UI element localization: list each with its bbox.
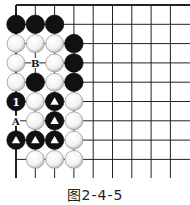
go-board: 1 BA <box>0 0 190 180</box>
black-stone <box>65 34 84 53</box>
black-stone <box>45 131 64 150</box>
white-stone <box>26 93 44 111</box>
black-stone <box>7 15 26 34</box>
stones-layer: 1 <box>7 15 83 168</box>
white-stone <box>26 150 44 168</box>
white-stone <box>7 54 25 72</box>
white-stone <box>65 150 83 168</box>
white-stone <box>26 35 44 53</box>
black-stone <box>45 92 64 111</box>
black-stone <box>7 131 26 150</box>
white-stone <box>65 131 83 149</box>
white-stone <box>46 73 64 91</box>
white-stone <box>46 150 64 168</box>
black-stone: 1 <box>7 92 26 111</box>
black-stone <box>26 73 45 92</box>
white-stone <box>65 112 83 130</box>
black-stone <box>45 15 64 34</box>
point-label-a: A <box>11 116 20 127</box>
white-stone <box>26 112 44 130</box>
white-stone <box>46 54 64 72</box>
white-stone <box>46 35 64 53</box>
move-number: 1 <box>12 96 20 109</box>
black-stone <box>26 131 45 150</box>
black-stone <box>65 73 84 92</box>
figure-caption: 图2-4-5 <box>0 184 190 204</box>
black-stone <box>26 15 45 34</box>
white-stone <box>65 93 83 111</box>
point-label-b: B <box>31 58 39 69</box>
white-stone <box>7 73 25 91</box>
black-stone <box>65 54 84 73</box>
white-stone <box>7 35 25 53</box>
black-stone <box>45 112 64 131</box>
